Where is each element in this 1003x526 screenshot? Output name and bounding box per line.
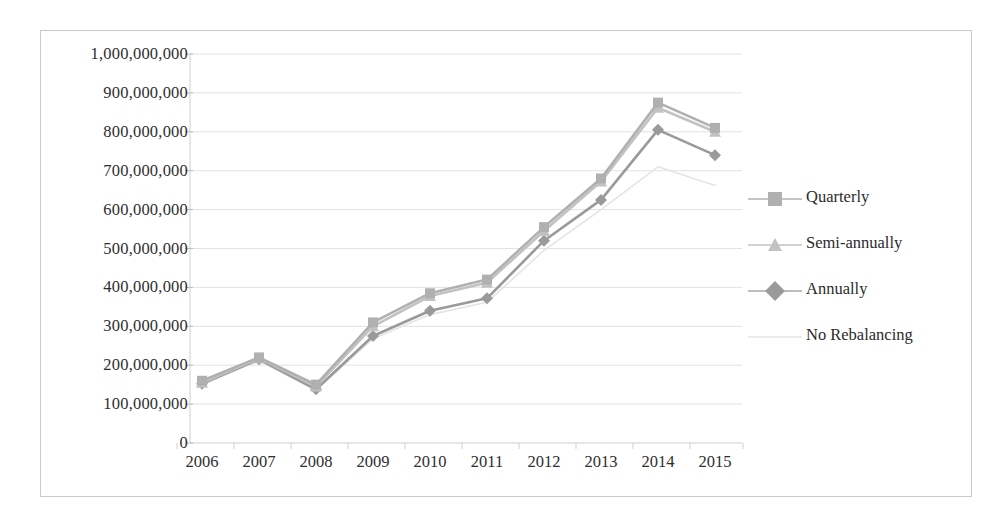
legend-key-quarterly [748,188,802,210]
legend-label-no-rebalancing: No Rebalancing [802,324,913,345]
legend-item-semi-annually: Semi-annually [748,232,966,258]
legend-label-quarterly: Quarterly [802,186,869,207]
y-axis-tick-label: 400,000,000 [48,277,188,297]
legend-label-annually: Annually [802,278,867,299]
legend-label-semi-annually: Semi-annually [802,232,902,253]
y-axis-tick-label: 500,000,000 [48,239,188,259]
y-axis-tick-label: 0 [48,433,188,453]
diamond-marker-icon [765,281,785,301]
legend-item-annually: Annually [748,278,966,304]
y-axis-tick-label: 300,000,000 [48,316,188,336]
y-axis-tick-label: 1,000,000,000 [48,44,188,64]
triangle-marker-icon [768,238,782,251]
legend-item-quarterly: Quarterly [748,186,966,212]
y-axis-tick-label: 900,000,000 [48,83,188,103]
legend-key-annually [748,280,802,302]
square-marker-icon [768,192,782,206]
y-axis-tick-label: 700,000,000 [48,161,188,181]
chart-legend: Quarterly Semi-annually Annually No Reba… [748,186,966,370]
y-axis-tick-label: 100,000,000 [48,394,188,414]
legend-item-no-rebalancing: No Rebalancing [748,324,966,350]
y-axis-tick-label: 600,000,000 [48,200,188,220]
y-axis-tick-label: 200,000,000 [48,355,188,375]
legend-key-semi-annually [748,234,802,256]
legend-line-icon [748,336,802,338]
y-axis-tick-label: 800,000,000 [48,122,188,142]
chart-screenshot: 1,000,000,000900,000,000800,000,000700,0… [0,0,1003,526]
x-axis-tick-label: 2015 [680,452,750,472]
y-axis-labels: 1,000,000,000900,000,000800,000,000700,0… [48,0,188,526]
legend-key-no-rebalancing [748,326,802,348]
